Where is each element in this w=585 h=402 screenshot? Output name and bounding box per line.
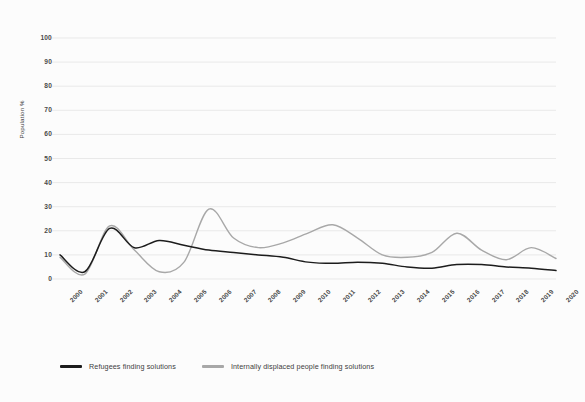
chart-legend: Refugees finding solutionsInternally dis… <box>60 362 374 371</box>
legend-swatch-icon <box>202 365 224 368</box>
legend-swatch-icon <box>60 365 82 368</box>
plot-area <box>0 0 585 402</box>
legend-item[interactable]: Internally displaced people finding solu… <box>202 362 374 371</box>
line-chart: Population % 1009080706050403020100 2000… <box>0 0 585 402</box>
legend-label: Internally displaced people finding solu… <box>231 362 374 371</box>
series-lines <box>60 209 556 275</box>
legend-label: Refugees finding solutions <box>89 362 176 371</box>
legend-item[interactable]: Refugees finding solutions <box>60 362 176 371</box>
